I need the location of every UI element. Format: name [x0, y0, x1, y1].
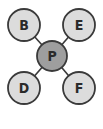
node-e-label: E	[75, 17, 84, 33]
node-e: E	[63, 9, 95, 41]
center-node-p: P	[37, 41, 67, 71]
node-d: D	[8, 72, 40, 104]
node-b-label: B	[19, 17, 29, 33]
node-d-label: D	[19, 80, 29, 96]
node-f: F	[63, 72, 95, 104]
molecule-diagram: B E D F P	[0, 0, 103, 129]
center-node-label: P	[47, 48, 56, 64]
node-b: B	[8, 9, 40, 41]
node-f-label: F	[75, 80, 84, 96]
